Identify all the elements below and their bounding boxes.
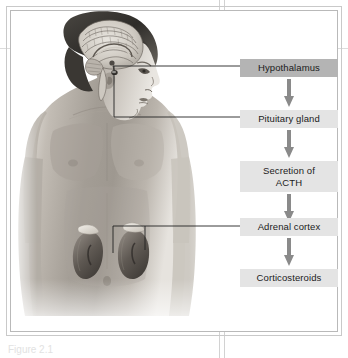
flow-label-secretion-line1: Secretion of [242,165,336,177]
flow-arrow-1 [284,79,294,107]
figure-caption-fragment: Figure 2.1 [8,344,148,356]
hypothalamus-region [109,60,114,65]
flowchart: Hypothalamus Pituitary gland Secretion o… [240,11,340,331]
flow-box-adrenal-cortex[interactable]: Adrenal cortex [240,218,338,236]
anatomy-illustration [11,11,229,331]
flow-label-corticosteroids: Corticosteroids [257,272,322,283]
flow-label-pituitary-gland: Pituitary gland [258,113,320,124]
flow-arrow-2 [284,130,294,158]
flow-label-adrenal-cortex: Adrenal cortex [258,221,321,232]
flow-arrow-4 [284,238,294,266]
flow-box-pituitary-gland[interactable]: Pituitary gland [240,110,338,128]
flow-box-corticosteroids[interactable]: Corticosteroids [240,269,338,287]
flow-box-hypothalamus[interactable]: Hypothalamus [240,59,338,77]
flow-box-secretion-of-acth[interactable]: Secretion of ACTH [240,161,338,192]
figure-page: Hypothalamus Pituitary gland Secretion o… [0,0,348,358]
flow-label-hypothalamus: Hypothalamus [258,62,320,73]
flow-label-secretion-line2: ACTH [242,177,336,189]
